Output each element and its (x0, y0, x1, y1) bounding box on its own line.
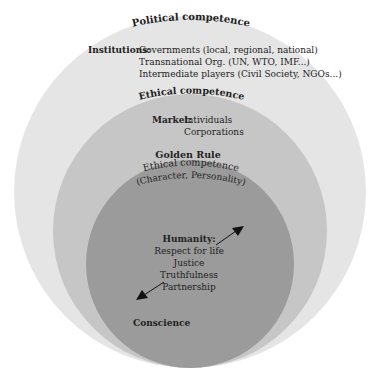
middle-item-2: Corporations (184, 127, 244, 137)
concentric-competence-diagram: Political competence Institutions: Gover… (0, 0, 375, 383)
outer-item-2: Transnational Org. (UN, WTO, IMF...) (139, 57, 310, 67)
middle-item-1: Intividuals (184, 115, 233, 125)
conscience-label: Conscience (133, 318, 190, 328)
outer-item-1: Governments (local, regional, national) (139, 45, 318, 55)
humanity-item-2: Justice (173, 258, 205, 268)
humanity-item-1: Respect for life (154, 246, 224, 256)
outer-item-3: Intermediate players (Civil Society, NGO… (139, 69, 342, 79)
humanity-item-4: Partnership (162, 282, 216, 292)
humanity-item-3: Truthfulness (160, 270, 218, 280)
humanity-heading: Humanity: (162, 234, 215, 244)
